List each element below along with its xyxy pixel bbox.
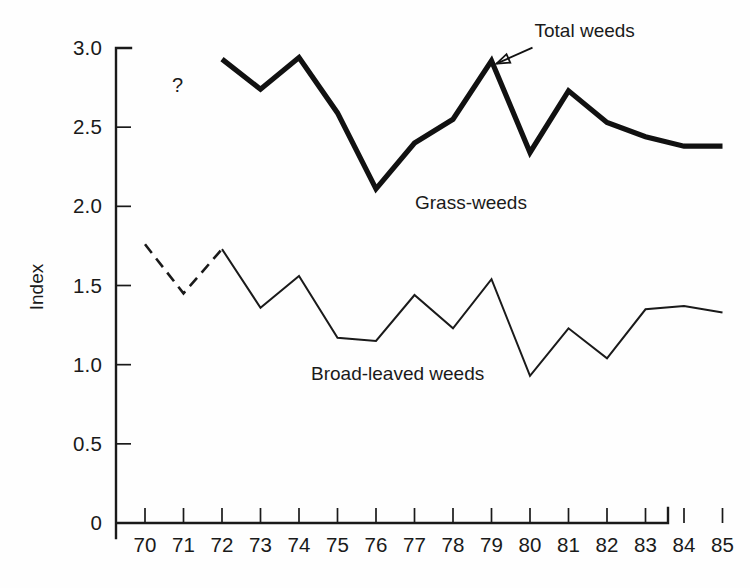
x-tick-label: 70 bbox=[133, 533, 156, 557]
arrow-shaft-icon bbox=[497, 48, 533, 64]
y-tick-label: 1.5 bbox=[40, 274, 102, 298]
x-tick-label: 85 bbox=[711, 533, 734, 557]
annotation-total-weeds: Total weeds bbox=[535, 20, 635, 42]
series-line-total-weeds bbox=[222, 58, 723, 189]
chart-series-group bbox=[145, 58, 723, 376]
arrow-head-icon bbox=[497, 54, 511, 63]
x-tick-label: 75 bbox=[326, 533, 349, 557]
x-tick-label: 79 bbox=[480, 533, 503, 557]
y-tick-label: 2.0 bbox=[40, 194, 102, 218]
axis-lines bbox=[116, 48, 668, 538]
y-tick-label: 0 bbox=[40, 511, 102, 535]
chart-plot-area bbox=[0, 0, 750, 588]
y-tick-label: 2.5 bbox=[40, 115, 102, 139]
x-tick-label: 81 bbox=[557, 533, 580, 557]
weed-index-chart-figure: Index 00.51.01.52.02.53.0 70717273747576… bbox=[0, 0, 750, 588]
x-tick-label: 80 bbox=[518, 533, 541, 557]
annotation-broad-leaved-weeds: Broad-leaved weeds bbox=[311, 363, 484, 385]
series-line-broad-leaved-weeds bbox=[222, 249, 723, 376]
y-tick-label: 0.5 bbox=[40, 432, 102, 456]
series-line-broad-leaved-weeds-dashed bbox=[145, 244, 222, 293]
x-tick-label: 78 bbox=[441, 533, 464, 557]
x-tick-label: 74 bbox=[287, 533, 310, 557]
x-axis-ticks bbox=[145, 508, 723, 523]
x-tick-label: 84 bbox=[672, 533, 695, 557]
x-tick-label: 76 bbox=[364, 533, 387, 557]
x-tick-label: 83 bbox=[634, 533, 657, 557]
x-tick-label: 71 bbox=[172, 533, 195, 557]
y-axis-ticks bbox=[116, 127, 131, 444]
x-tick-label: 77 bbox=[403, 533, 426, 557]
x-tick-label: 82 bbox=[595, 533, 618, 557]
x-tick-label: 72 bbox=[210, 533, 233, 557]
annotation-grass-weeds: Grass-weeds bbox=[415, 192, 527, 214]
y-tick-label: 3.0 bbox=[40, 36, 102, 60]
chart-axes bbox=[116, 48, 723, 538]
annotation-uncertainty-marker: ? bbox=[172, 74, 183, 97]
y-tick-label: 1.0 bbox=[40, 353, 102, 377]
x-tick-label: 73 bbox=[249, 533, 272, 557]
total-weeds-arrow bbox=[497, 48, 533, 64]
